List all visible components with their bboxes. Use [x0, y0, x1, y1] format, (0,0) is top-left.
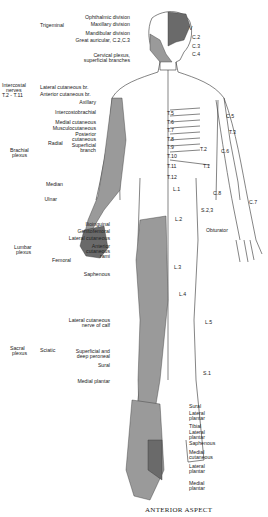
group-trigeminal: Trigeminal: [40, 23, 64, 29]
foot-label-medial-plantar-b: plantar: [189, 486, 205, 492]
foot-label-sural: Sural: [189, 404, 201, 410]
label-S1: S.1: [203, 371, 211, 377]
group-intercostal-3: T.2 - T.11: [2, 93, 23, 99]
label-cervical-plexus-2: superficial branches: [84, 58, 130, 64]
label-lateral-cutaneous-calf-2: nerve of calf: [82, 323, 110, 329]
label-T8: T.8: [167, 137, 174, 143]
label-medial-plantar: Medial plantar: [77, 379, 110, 385]
label-intercostobrachial: Intercostobrachial: [55, 110, 96, 116]
label-median: Median: [46, 182, 63, 188]
foot-label-saphenous: Saphenous: [189, 441, 215, 447]
label-axillary: Axillary: [79, 100, 96, 106]
group-femoral: Femoral: [52, 258, 71, 264]
label-C5: C.5: [226, 114, 234, 120]
label-T5: T.5: [167, 111, 174, 117]
label-T9: T.9: [167, 145, 174, 151]
label-S23: S.2,3: [201, 208, 213, 214]
label-T10: T.10: [167, 154, 177, 160]
label-obturator: Obturator: [206, 228, 228, 234]
label-sural: Sural: [98, 363, 110, 369]
label-superficial-branch-2: branch: [80, 148, 96, 154]
label-lateral-cutaneous-br: Lateral cutaneous br.: [40, 85, 88, 91]
label-T2: T.2: [200, 147, 207, 153]
label-L4: L.4: [179, 292, 186, 298]
label-superficial-deep-peroneal-2: deep peroneal: [77, 354, 110, 360]
label-mandibular: Mandibular division: [86, 31, 130, 37]
label-ulnar: Ulnar: [45, 197, 57, 203]
group-brachial-2: plexus: [12, 153, 27, 159]
label-V: V: [189, 26, 192, 32]
label-L3: L.3: [174, 265, 181, 271]
label-anterior-cutaneous-rami-3: rami: [100, 254, 110, 260]
figure-caption: ANTERIOR ASPECT: [145, 506, 212, 514]
foot-label-lateral-plantar-1b: plantar: [189, 416, 205, 422]
label-anterior-cutaneous-br: Anterior cutaneous br.: [40, 92, 91, 98]
label-saphenous: Saphenous: [84, 272, 110, 278]
label-ilioinguinal: Ilioinguinal: [85, 222, 110, 228]
label-maxillary: Maxillary division: [91, 22, 130, 28]
body-figure: [0, 0, 268, 517]
label-T12: T.12: [167, 175, 177, 181]
label-L2: L.2: [175, 217, 182, 223]
label-L1: L.1: [173, 187, 180, 193]
label-T1: T.1: [203, 164, 210, 170]
group-lumbar-2: plexus: [16, 250, 31, 256]
label-T6: T.6: [167, 120, 174, 126]
label-great-auricular: Great auricular, C.2,C.3: [76, 38, 131, 44]
label-C3: C.3: [192, 44, 200, 50]
foot-label-medial-cutaneous-b: cutaneous: [189, 455, 213, 461]
label-lateral-cutaneous: Lateral cutaneous: [69, 236, 110, 242]
foot-label-lateral-plantar-3b: plantar: [189, 469, 205, 475]
label-ophthalmic: Ophthalmic division: [85, 15, 130, 21]
group-radial: Radial: [48, 141, 63, 147]
group-sacral-2: plexus: [12, 351, 27, 357]
label-L5: L.5: [205, 320, 212, 326]
group-sciatic: Sciatic: [40, 348, 55, 354]
label-T7: T.7: [167, 128, 174, 134]
label-C4: C.4: [192, 52, 200, 58]
ophthalmic-area: [168, 12, 190, 46]
label-C7: C.7: [249, 200, 257, 206]
label-genitofemoral: Genitofemoral: [77, 229, 110, 235]
label-C6: C.6: [221, 149, 229, 155]
label-T3: T.3: [229, 130, 236, 136]
label-C8: C.8: [213, 191, 221, 197]
label-C2: C.2: [192, 35, 200, 41]
label-T11: T.11: [167, 164, 176, 170]
